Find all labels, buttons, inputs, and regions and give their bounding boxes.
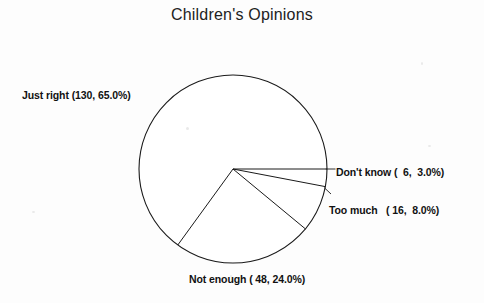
scan-speck <box>230 275 232 277</box>
scan-speck <box>421 62 423 65</box>
slice-label-just-right: Just right (130, 65.0%) <box>22 89 131 101</box>
scan-speck <box>32 211 35 213</box>
slice-label-dont-know: Don't know ( 6, 3.0%) <box>336 166 444 178</box>
slice-label-not-enough: Not enough ( 48, 24.0%) <box>189 273 305 285</box>
pie-chart-graphic <box>0 0 484 303</box>
pie-chart-figure: Children's Opinions Just right (130, 65.… <box>0 0 484 303</box>
scan-speck <box>428 145 431 147</box>
leader-line-too-much <box>324 188 331 194</box>
slice-label-too-much: Too much ( 16, 8.0%) <box>329 204 439 216</box>
scan-speck <box>186 127 189 130</box>
